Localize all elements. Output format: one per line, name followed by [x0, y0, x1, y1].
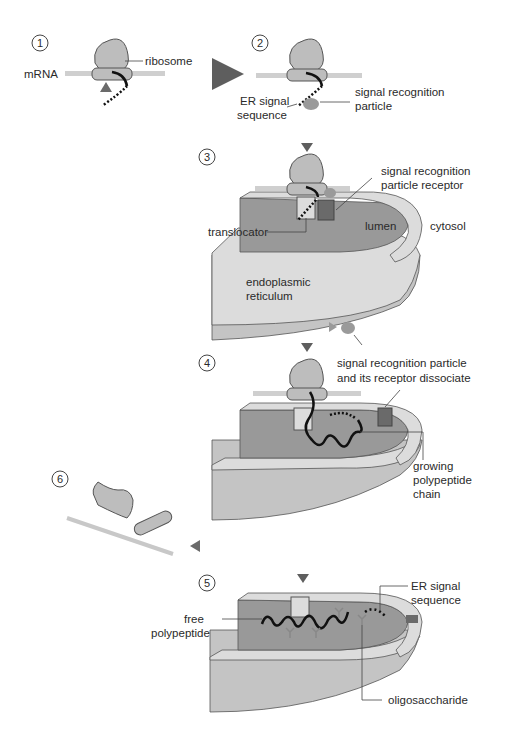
- chain-label-3: chain: [413, 488, 441, 500]
- er-label: endoplasmic: [246, 276, 311, 288]
- step-number: 3: [204, 151, 210, 163]
- released-srp-icon: [341, 322, 355, 334]
- mrna-label: mRNA: [24, 68, 58, 80]
- step-2: 2 ER signal sequence signal recognition …: [237, 35, 445, 152]
- lumen-label: lumen: [365, 220, 396, 232]
- receptor-label: signal recognition: [381, 165, 471, 177]
- er-signal-label: ER signal: [240, 95, 289, 107]
- dissociate-label: signal recognition particle: [337, 357, 467, 369]
- step-5: 5 ER signal sequence free polypeptide ol…: [151, 575, 468, 712]
- dissociated-small-subunit-icon: [132, 509, 173, 537]
- arrow-head: [190, 540, 200, 552]
- free-label: free: [184, 613, 204, 625]
- cytosol-label: cytosol: [430, 220, 466, 232]
- step-1: 1 mRNA ribosome: [24, 35, 236, 106]
- er-signal-label-2: sequence: [411, 594, 461, 606]
- arrow-head: [100, 82, 112, 92]
- er-label-2: reticulum: [246, 290, 293, 302]
- srp-receptor-icon: [378, 408, 392, 426]
- translocator-label: translocator: [208, 226, 268, 238]
- ribosome-small-subunit-icon: [287, 388, 327, 400]
- step-3: 3 signal recognition particle receptor t…: [199, 149, 471, 352]
- chain-label: growing: [413, 460, 453, 472]
- signal-recognition-particle-icon: [303, 98, 319, 110]
- ribosome-small-subunit-icon: [92, 68, 132, 80]
- free-label-2: polypeptide: [151, 627, 210, 639]
- er-signal-label: ER signal: [411, 580, 460, 592]
- step-number: 4: [204, 357, 210, 369]
- chain-label-2: polypeptide: [413, 474, 472, 486]
- ribosome-large-subunit-icon: [95, 39, 129, 70]
- srp-receptor-icon: [318, 200, 334, 220]
- leader-line: [385, 390, 400, 407]
- leader-line: [354, 335, 362, 345]
- dissociate-label-2: and its receptor dissociate: [337, 372, 471, 384]
- arrow-head: [301, 343, 313, 352]
- step-number: 5: [204, 577, 210, 589]
- srp-label-2: particle: [355, 100, 392, 112]
- ribosome-large-subunit-icon: [290, 154, 324, 185]
- step-6: 6: [52, 82, 174, 554]
- arrow-head: [297, 574, 309, 583]
- ribosome-large-subunit-icon: [290, 359, 324, 390]
- er-translocation-diagram: 1 mRNA ribosome 2 ER signal sequence sig…: [0, 0, 506, 742]
- translocator-icon: [291, 597, 309, 617]
- step-number: 6: [57, 473, 63, 485]
- srp-receptor-icon: [406, 615, 418, 623]
- er-signal-label-2: sequence: [237, 109, 287, 121]
- translocator-icon: [297, 197, 315, 219]
- ribosome-label: ribosome: [145, 55, 192, 67]
- oligosaccharide-label: oligosaccharide: [388, 694, 468, 706]
- receptor-label-2: particle receptor: [381, 179, 464, 191]
- ribosome-small-subunit-icon: [287, 183, 327, 195]
- ribosome-small-subunit-icon: [287, 69, 327, 81]
- dissociated-large-subunit-icon: [93, 482, 133, 518]
- srp-label: signal recognition: [355, 86, 445, 98]
- er-lumen: [238, 600, 408, 650]
- step-number: 2: [257, 37, 263, 49]
- step-4: 4 signal recognition particle and its re…: [190, 335, 472, 583]
- signal-recognition-particle-icon: [324, 188, 336, 198]
- ribosome-large-subunit-icon: [290, 39, 324, 70]
- step-number: 1: [37, 37, 43, 49]
- arrow-head: [301, 143, 313, 152]
